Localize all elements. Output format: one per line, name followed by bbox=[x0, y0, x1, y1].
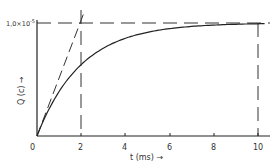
x-tick-8: 8 bbox=[211, 143, 216, 152]
y-axis-title: Q (c) → bbox=[17, 76, 26, 105]
x-axis-title: t (ms) → bbox=[130, 153, 163, 162]
y-max-label: 1,0×10-5 bbox=[6, 18, 35, 28]
x-tick-10: 10 bbox=[253, 143, 263, 152]
x-tick-2: 2 bbox=[78, 143, 83, 152]
x-tick-6: 6 bbox=[167, 143, 172, 152]
x-tick-0: 0 bbox=[30, 143, 35, 152]
tangent-dashed-line bbox=[37, 10, 85, 136]
charge-curve bbox=[37, 24, 265, 136]
charge-vs-time-chart: 0 2 4 6 8 10 1,0×10-5 t (ms) → Q (c) → bbox=[0, 0, 276, 168]
x-tick-4: 4 bbox=[122, 143, 127, 152]
